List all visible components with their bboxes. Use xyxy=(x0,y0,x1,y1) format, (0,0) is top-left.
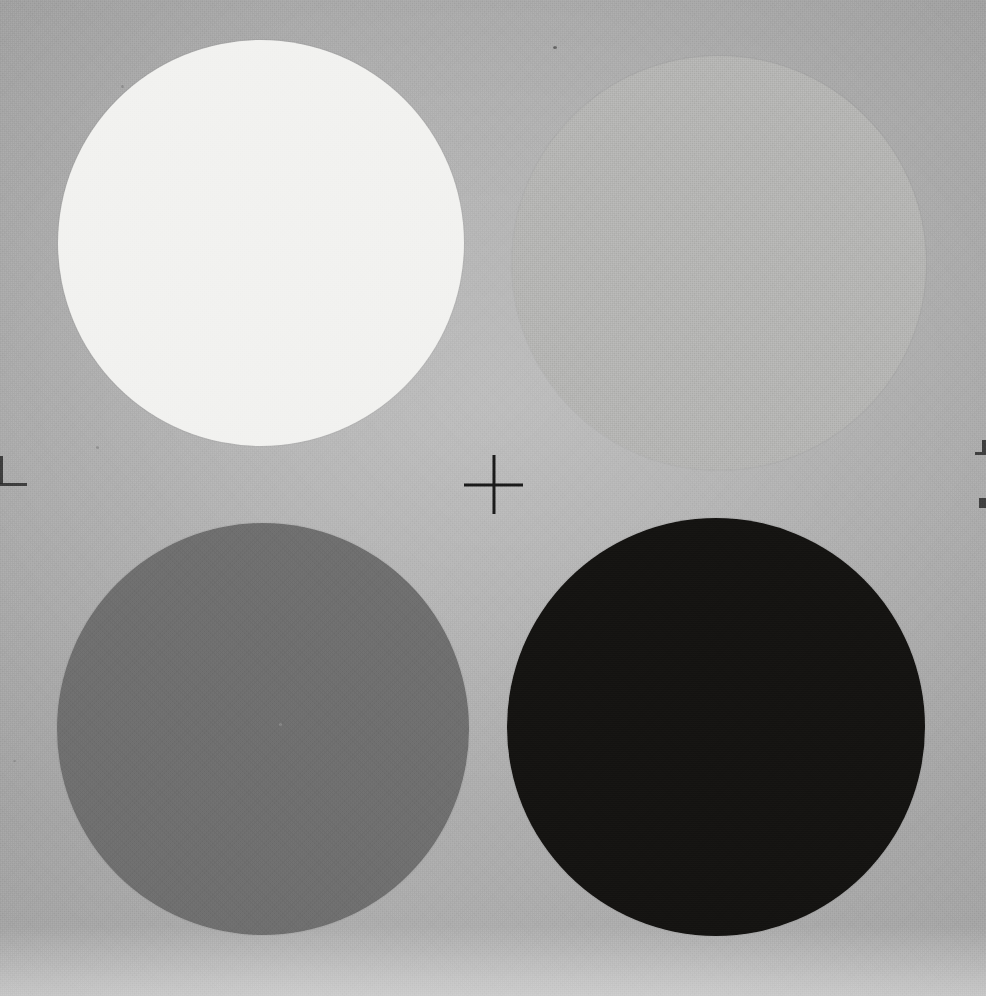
dust-speck xyxy=(279,723,282,726)
patch-black[interactable]: Black xyxy=(507,518,925,936)
patch-grain xyxy=(58,40,464,446)
edge-tick-left-lower xyxy=(0,483,27,486)
dust-speck xyxy=(553,46,557,49)
patch-mid-gray[interactable]: Mid Gray xyxy=(57,523,469,935)
edge-tick-right-lower xyxy=(979,498,986,508)
dust-speck xyxy=(121,85,124,88)
patch-grain xyxy=(507,518,925,936)
patch-light-gray[interactable]: Light Gray xyxy=(512,56,926,470)
patch-grain xyxy=(57,523,469,935)
edge-tick-left-top xyxy=(0,456,3,484)
dust-speck xyxy=(96,446,99,449)
edge-tick-right-top xyxy=(982,440,986,452)
scan-canvas: White Light Gray Mid Gray Black + Graysc… xyxy=(0,0,986,996)
patch-white[interactable]: White xyxy=(58,40,464,446)
edge-tick-right-upper xyxy=(975,452,986,455)
dust-speck xyxy=(13,760,16,762)
patch-grain xyxy=(512,56,926,470)
